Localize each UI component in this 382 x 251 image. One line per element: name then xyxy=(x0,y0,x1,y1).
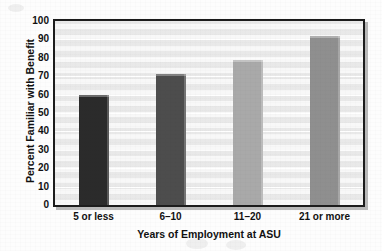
bar-highlight xyxy=(79,95,109,97)
plot-area xyxy=(55,21,363,205)
chart-figure: 1009080706050403020100 Percent Familiar … xyxy=(0,0,382,251)
x-tick-label: 11–20 xyxy=(209,211,286,222)
bar-edge-highlight xyxy=(184,74,186,205)
bar-highlight xyxy=(233,60,263,62)
bar xyxy=(156,74,186,205)
x-tick-label: 5 or less xyxy=(55,211,132,222)
x-tick-label: 21 or more xyxy=(286,211,363,222)
bar-highlight xyxy=(310,36,340,38)
bar-edge-highlight xyxy=(338,36,340,205)
bar-edge-highlight xyxy=(107,95,109,205)
y-axis-label: Percent Familiar with Benefit xyxy=(24,16,36,206)
bar-highlight xyxy=(156,74,186,76)
x-tick-label: 6–10 xyxy=(132,211,209,222)
bar xyxy=(310,36,340,205)
plot-frame xyxy=(53,19,365,207)
bar xyxy=(79,95,109,205)
bar xyxy=(233,60,263,205)
bar-edge-highlight xyxy=(261,60,263,205)
scan-artifact xyxy=(226,240,246,250)
x-axis-label: Years of Employment at ASU xyxy=(53,228,365,240)
